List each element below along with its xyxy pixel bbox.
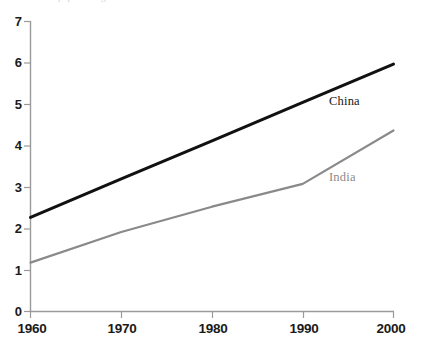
data-line-china xyxy=(31,64,394,217)
y-tick-label-7: 7 xyxy=(0,15,22,28)
x-tick-label-1970: 1970 xyxy=(92,322,152,336)
plot-area xyxy=(0,0,421,345)
x-tick-label-1990: 1990 xyxy=(274,322,334,336)
series-label-china: China xyxy=(329,94,360,109)
population-line-chart: population growth in billions over time … xyxy=(0,0,421,345)
y-tick-label-2: 2 xyxy=(0,222,22,235)
y-tick-label-0: 0 xyxy=(0,305,22,318)
y-tick-label-6: 6 xyxy=(0,56,22,69)
x-tick-label-1980: 1980 xyxy=(183,322,243,336)
x-tick-label-2000: 2000 xyxy=(361,322,421,336)
x-tick-label-1960: 1960 xyxy=(2,322,62,336)
y-tick-label-3: 3 xyxy=(0,181,22,194)
y-tick-label-4: 4 xyxy=(0,139,22,152)
y-axis-ticks xyxy=(24,22,30,312)
y-tick-label-5: 5 xyxy=(0,98,22,111)
x-axis-ticks xyxy=(31,312,394,318)
y-tick-label-1: 1 xyxy=(0,264,22,277)
series-label-india: India xyxy=(329,170,356,185)
data-line-india xyxy=(31,130,394,262)
